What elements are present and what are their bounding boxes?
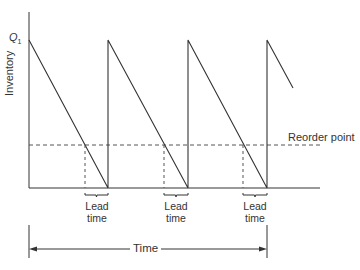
lead-time-label-line2: time	[77, 212, 117, 224]
lead-time-brace-1	[85, 193, 108, 197]
time-arrow-left-head	[29, 247, 37, 252]
lead-time-label-line1: Lead	[235, 200, 275, 212]
lead-time-label-line2: time	[156, 212, 196, 224]
time-label: Time	[130, 242, 161, 254]
y-axis-label: Inventory	[3, 51, 15, 96]
lead-time-label-line1: Lead	[77, 200, 117, 212]
q1-label: Q1	[9, 31, 21, 45]
lead-time-label-line1: Lead	[156, 200, 196, 212]
lead-time-brace-2	[164, 193, 188, 197]
lead-time-label-2: Lead time	[156, 200, 196, 224]
lead-time-label-3: Lead time	[235, 200, 275, 224]
lead-time-label-1: Lead time	[77, 200, 117, 224]
inventory-line	[29, 40, 293, 188]
lead-time-label-line2: time	[235, 212, 275, 224]
lead-time-brace-3	[243, 193, 267, 197]
reorder-point-label: Reorder point	[288, 131, 355, 143]
time-arrow-right-head	[259, 247, 267, 252]
